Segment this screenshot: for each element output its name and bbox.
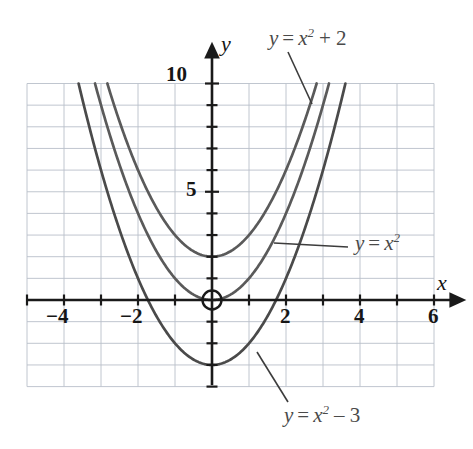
y-axis-label: y	[221, 33, 231, 55]
annotation-y-equals-x-squared-minus-3: y=x2– 3	[284, 405, 360, 426]
x-tick-label-minus-2: −2	[120, 306, 142, 327]
annotation-top-equals: =	[282, 26, 294, 50]
annotation-top-base: x	[298, 26, 307, 50]
x-tick-label-6: 6	[428, 306, 439, 327]
x-axis-label: x	[437, 272, 447, 294]
annotation-mid-lhs: y	[355, 231, 364, 255]
annotation-top-tail: + 2	[319, 26, 347, 50]
annotation-y-equals-x-squared-plus-2: y=x2+ 2	[269, 28, 347, 49]
annotation-top-exponent: 2	[308, 25, 315, 40]
y-tick-label-10: 10	[166, 64, 187, 85]
annotation-bottom-equals: =	[297, 403, 309, 427]
annotation-bottom-lhs: y	[284, 403, 293, 427]
chart-background	[0, 0, 473, 449]
annotation-bottom-base: x	[313, 403, 322, 427]
annotation-bottom-tail: – 3	[334, 403, 360, 427]
y-tick-label-5: 5	[186, 179, 197, 200]
annotation-bottom-exponent: 2	[323, 402, 330, 417]
x-tick-label-minus-4: −4	[46, 306, 68, 327]
x-tick-label-2: 2	[280, 306, 291, 327]
annotation-mid-base: x	[384, 231, 393, 255]
annotation-mid-exponent: 2	[394, 230, 401, 245]
x-tick-label-4: 4	[354, 306, 365, 327]
annotation-top-lhs: y	[269, 26, 278, 50]
annotation-mid-equals: =	[368, 231, 380, 255]
parabola-family-chart	[0, 0, 473, 449]
annotation-y-equals-x-squared: y=x2	[355, 233, 400, 254]
